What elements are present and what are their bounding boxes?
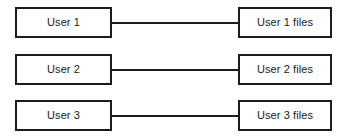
connector-line	[111, 22, 239, 24]
mapping-row: User 3 User 3 files	[0, 100, 346, 131]
user-files-mapping-diagram: User 1 User 1 files User 2 User 2 files …	[0, 0, 346, 139]
user-node-box[interactable]: User 3	[15, 100, 112, 131]
files-node-box[interactable]: User 3 files	[238, 100, 332, 131]
files-node-box[interactable]: User 1 files	[238, 7, 332, 38]
connector-line	[111, 69, 239, 71]
mapping-row: User 2 User 2 files	[0, 54, 346, 85]
files-node-label: User 2 files	[257, 64, 313, 75]
user-node-label: User 3	[47, 110, 80, 121]
connector-line	[111, 115, 239, 117]
files-node-label: User 3 files	[257, 110, 313, 121]
mapping-row: User 1 User 1 files	[0, 7, 346, 38]
files-node-box[interactable]: User 2 files	[238, 54, 332, 85]
user-node-label: User 2	[47, 64, 80, 75]
files-node-label: User 1 files	[257, 17, 313, 28]
user-node-box[interactable]: User 1	[15, 7, 112, 38]
user-node-label: User 1	[47, 17, 80, 28]
user-node-box[interactable]: User 2	[15, 54, 112, 85]
